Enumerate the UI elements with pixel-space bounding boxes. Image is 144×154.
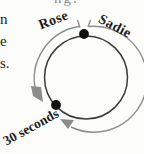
rose-label: Rose <box>36 7 70 32</box>
sadie-label: Sadie <box>96 11 134 41</box>
scanned-figure-page: n e s. ng. Rose Sadie 30 seconds <box>0 0 144 154</box>
start-position-dot <box>79 29 89 39</box>
rose-direction-arc <box>34 27 79 93</box>
time-label: 30 seconds <box>0 106 61 149</box>
track-diagram: Rose Sadie 30 seconds <box>0 0 144 154</box>
rose-arrowhead-icon <box>31 86 43 102</box>
